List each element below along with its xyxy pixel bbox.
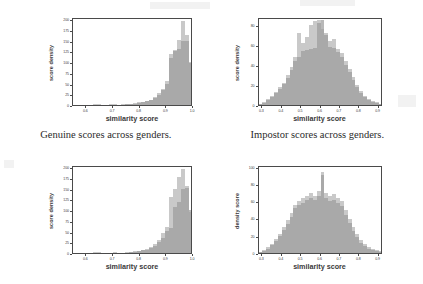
y-axis-tick-label: 150 bbox=[55, 188, 69, 192]
x-axis-tick-mark bbox=[139, 106, 140, 108]
caption-cell-genuine: Genuine scores across genders. bbox=[0, 128, 212, 150]
y-axis-label: density score bbox=[234, 193, 240, 229]
y-axis-tick-label: 75 bbox=[55, 72, 69, 76]
caption-impostor: Impostor scores across genders. bbox=[212, 129, 423, 140]
y-axis-tick-label: 40 bbox=[241, 64, 255, 68]
y-axis-tick-mark bbox=[256, 185, 258, 186]
x-axis-tick-mark bbox=[165, 106, 166, 108]
y-axis-tick-mark bbox=[256, 86, 258, 87]
x-axis-tick-label: 0.9 bbox=[163, 257, 168, 261]
y-axis-tick-label: 0 bbox=[241, 104, 255, 108]
histogram-bar bbox=[189, 63, 192, 105]
y-axis-tick-label: 200 bbox=[55, 18, 69, 22]
x-axis-tick-label: 0.5 bbox=[298, 109, 303, 113]
x-axis-tick-label: 0.6 bbox=[83, 257, 88, 261]
y-axis-tick-label: 0 bbox=[55, 104, 69, 108]
y-axis-tick-mark bbox=[256, 202, 258, 203]
x-axis-tick-label: 0.9 bbox=[375, 257, 380, 261]
y-axis-tick-mark bbox=[70, 95, 72, 96]
x-axis-tick-mark bbox=[300, 254, 301, 256]
x-axis-tick-mark bbox=[261, 254, 262, 256]
y-axis-tick-mark bbox=[70, 200, 72, 201]
y-axis-tick-mark bbox=[256, 46, 258, 47]
y-axis-label: score density bbox=[48, 45, 54, 81]
y-axis-tick-label: 20 bbox=[241, 235, 255, 239]
y-axis-tick-mark bbox=[70, 243, 72, 244]
x-axis-tick-mark bbox=[378, 254, 379, 256]
x-axis-tick-mark bbox=[281, 106, 282, 108]
y-axis-tick-mark bbox=[70, 190, 72, 191]
y-axis-tick-label: 125 bbox=[55, 50, 69, 54]
x-axis-tick-mark bbox=[112, 254, 113, 256]
y-axis-tick-mark bbox=[70, 74, 72, 75]
chart-cell-impostor-bottom: 0204060801000.30.40.50.60.70.80.9similar… bbox=[212, 150, 423, 284]
x-axis-tick-label: 0.8 bbox=[136, 109, 141, 113]
y-axis-tick-mark bbox=[256, 168, 258, 169]
y-axis-tick-label: 75 bbox=[55, 220, 69, 224]
y-axis-tick-mark bbox=[256, 106, 258, 107]
x-axis-tick-mark bbox=[139, 254, 140, 256]
x-axis-tick-label: 0.7 bbox=[110, 109, 115, 113]
y-axis-tick-label: 80 bbox=[241, 24, 255, 28]
chart-impostor-top: 0204060800.30.40.50.60.70.80.9similarity… bbox=[212, 0, 423, 128]
x-axis-tick-mark bbox=[320, 254, 321, 256]
y-axis-tick-mark bbox=[70, 211, 72, 212]
x-axis-tick-mark bbox=[85, 106, 86, 108]
y-axis-tick-label: 25 bbox=[55, 241, 69, 245]
y-axis-tick-mark bbox=[256, 219, 258, 220]
x-axis-tick-mark bbox=[165, 254, 166, 256]
x-axis-tick-mark bbox=[300, 106, 301, 108]
histogram-series-b bbox=[259, 19, 381, 105]
x-axis-tick-mark bbox=[192, 254, 193, 256]
x-axis-tick-label: 0.3 bbox=[259, 257, 264, 261]
y-axis-tick-label: 125 bbox=[55, 198, 69, 202]
y-axis-tick-label: 0 bbox=[241, 252, 255, 256]
y-axis-tick-mark bbox=[70, 31, 72, 32]
histogram-series-b bbox=[259, 167, 381, 253]
y-axis-tick-mark bbox=[70, 52, 72, 53]
x-axis-tick-mark bbox=[112, 106, 113, 108]
histogram-bar bbox=[189, 210, 192, 253]
y-axis-tick-mark bbox=[70, 63, 72, 64]
x-axis-tick-mark bbox=[320, 106, 321, 108]
y-axis-tick-label: 0 bbox=[55, 252, 69, 256]
x-axis-tick-label: 0.5 bbox=[298, 257, 303, 261]
histogram-bar bbox=[379, 252, 382, 253]
histogram-bar bbox=[379, 104, 382, 105]
x-axis-tick-label: 0.6 bbox=[317, 109, 322, 113]
x-axis-tick-label: 0.9 bbox=[163, 109, 168, 113]
chart-genuine-bottom: 02550751001251501752000.60.70.80.91.0sim… bbox=[0, 150, 212, 284]
y-axis-tick-label: 40 bbox=[241, 217, 255, 221]
histogram-series-b bbox=[73, 19, 191, 105]
y-axis-label: score density bbox=[234, 45, 240, 81]
x-axis-tick-mark bbox=[339, 106, 340, 108]
y-axis-tick-mark bbox=[256, 254, 258, 255]
x-axis-tick-mark bbox=[85, 254, 86, 256]
y-axis-tick-mark bbox=[256, 237, 258, 238]
y-axis-tick-label: 100 bbox=[241, 166, 255, 170]
y-axis-tick-mark bbox=[70, 254, 72, 255]
y-axis-tick-label: 50 bbox=[55, 83, 69, 87]
y-axis-tick-mark bbox=[70, 42, 72, 43]
y-axis-tick-label: 20 bbox=[241, 84, 255, 88]
plot-area bbox=[258, 18, 382, 106]
plot-area bbox=[258, 166, 382, 254]
x-axis-tick-label: 0.8 bbox=[136, 257, 141, 261]
plot-area bbox=[72, 18, 192, 106]
y-axis-tick-label: 60 bbox=[241, 200, 255, 204]
x-axis-tick-label: 0.9 bbox=[375, 109, 380, 113]
y-axis-tick-mark bbox=[70, 106, 72, 107]
chart-cell-genuine-bottom: 02550751001251501752000.60.70.80.91.0sim… bbox=[0, 150, 212, 284]
y-axis-tick-mark bbox=[70, 20, 72, 21]
x-axis-tick-mark bbox=[339, 254, 340, 256]
chart-cell-impostor-top: 0204060800.30.40.50.60.70.80.9similarity… bbox=[212, 0, 423, 128]
y-axis-tick-mark bbox=[256, 26, 258, 27]
y-axis-tick-label: 100 bbox=[55, 61, 69, 65]
x-axis-label: similarity score bbox=[72, 114, 192, 123]
x-axis-label: similarity score bbox=[72, 262, 192, 271]
y-axis-tick-label: 25 bbox=[55, 93, 69, 97]
x-axis-tick-label: 1.0 bbox=[190, 257, 195, 261]
x-axis-tick-label: 0.6 bbox=[83, 109, 88, 113]
x-axis-tick-label: 0.7 bbox=[337, 109, 342, 113]
x-axis-label: similarity score bbox=[258, 114, 382, 123]
